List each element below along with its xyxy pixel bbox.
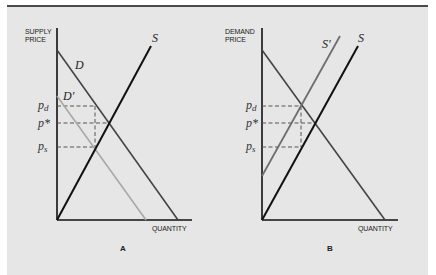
panel-a-demand-curve — [57, 50, 178, 220]
panel-b-supply-label: S — [358, 31, 364, 45]
panel-b-pstar-label: p* — [245, 116, 258, 130]
panel-a-pd-label: pd — [37, 98, 49, 113]
panel-b-x-axis-label: QUANTITY — [358, 225, 393, 233]
panel-a-demand-label: D — [74, 58, 84, 72]
panel-b-shifted-supply-curve — [262, 36, 340, 176]
panel-a-pstar-label: p* — [37, 116, 50, 130]
panel-b-demand-curve — [262, 50, 385, 220]
panel-a-ps-label: ps — [37, 139, 48, 154]
panel-a-supply-label: S — [152, 31, 158, 45]
panel-a-shifted-demand-label: D' — [62, 89, 75, 103]
panel-a-supply-curve — [57, 46, 151, 220]
panel-b-shifted-supply-label: S' — [322, 37, 331, 51]
panel-b-supply-curve — [262, 46, 358, 220]
panel-a-y-axis-label-line2: PRICE — [25, 36, 46, 43]
panel-a-letter: A — [120, 244, 126, 253]
panel-a-x-axis-label: QUANTITY — [152, 225, 187, 233]
panel-b-letter: B — [327, 244, 333, 253]
panel-a-y-axis-label-line1: SUPPLY — [25, 28, 52, 35]
panel-a: SUPPLY PRICE D D' S pd p* ps QUANTITY A — [25, 28, 192, 253]
panel-a-shifted-demand-curve — [57, 96, 146, 220]
panel-b-ps-label: ps — [245, 139, 256, 154]
panel-b-pd-label: pd — [245, 98, 257, 113]
panel-b-y-axis-label-line2: PRICE — [225, 36, 246, 43]
panel-b: DEMAND PRICE S' S pd p* ps QUANTITY B — [225, 28, 398, 253]
panel-b-y-axis-label-line1: DEMAND — [225, 28, 255, 35]
